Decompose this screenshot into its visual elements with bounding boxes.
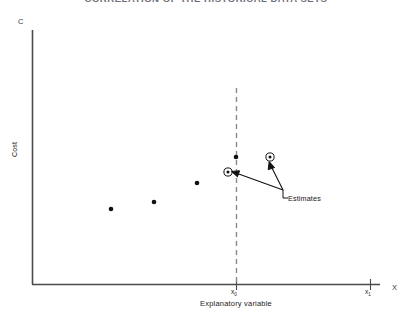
estimates-leader-arrows [232,162,289,198]
chart-figure: CORRELATION OF THE HISTORICAL DATA SETS … [0,0,412,320]
chart-canvas [0,0,412,320]
data-point [234,155,239,160]
data-point [152,200,157,205]
estimate-marker [224,168,232,176]
data-point [109,207,114,212]
data-point [195,181,200,186]
estimate-marker [266,153,274,161]
